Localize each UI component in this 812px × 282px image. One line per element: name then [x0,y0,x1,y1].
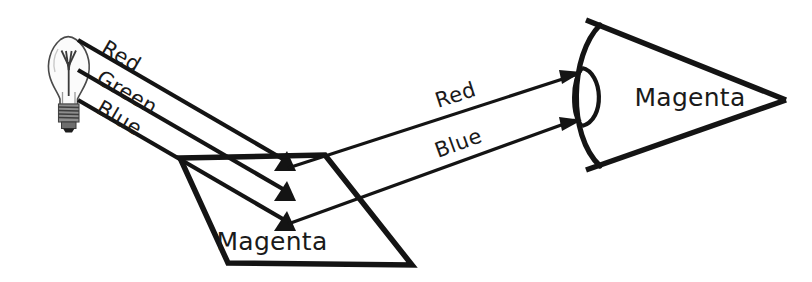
label-magenta-surface: Magenta [216,227,327,256]
label-perceived-magenta: Magenta [634,83,745,112]
bulb-screw-base [59,104,80,133]
diagram-canvas: Red Green Blue Magenta Red Blue Magenta [0,0,812,282]
eye-cornea-arc [576,25,600,166]
light-bulb-icon [48,37,89,133]
magenta-reflection-diagram: Red Green Blue Magenta Red Blue Magenta [0,0,812,282]
reflected-beam-red [288,75,575,168]
reflected-beam-blue [288,120,575,224]
eye-lens [582,68,599,126]
